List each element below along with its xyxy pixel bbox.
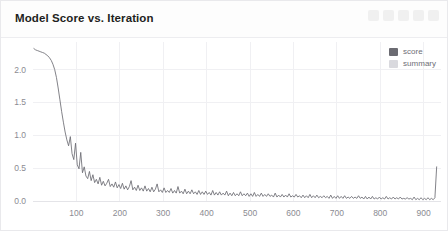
gridlines [33, 42, 441, 201]
panel-title-bar: Model Score vs. Iteration [1, 1, 447, 38]
x-axis-tick-labels: 100200300400500600700800900 [69, 208, 431, 218]
chart-legend: score summary [389, 47, 436, 68]
legend-label-summary: summary [403, 59, 436, 68]
svg-text:900: 900 [417, 208, 431, 218]
legend-swatch-summary [389, 60, 398, 68]
panel-toolbar[interactable] [368, 10, 439, 21]
series-layer [34, 49, 437, 200]
legend-item-summary[interactable]: summary [389, 59, 436, 68]
edit-icon[interactable] [383, 10, 394, 21]
svg-text:100: 100 [69, 208, 83, 218]
share-icon[interactable] [368, 10, 379, 21]
page-title: Model Score vs. Iteration [15, 12, 154, 24]
svg-text:1.5: 1.5 [14, 97, 26, 107]
svg-text:700: 700 [330, 208, 344, 218]
y-axis-tick-labels: 0.00.51.01.52.0 [14, 65, 26, 206]
svg-text:200: 200 [113, 208, 127, 218]
svg-text:0.5: 0.5 [14, 163, 26, 173]
plot-area[interactable]: 100200300400500600700800900 0.00.51.01.5… [1, 38, 448, 231]
legend-item-score[interactable]: score [389, 47, 436, 56]
svg-text:400: 400 [200, 208, 214, 218]
plot-svg: 100200300400500600700800900 0.00.51.01.5… [1, 38, 448, 231]
svg-text:300: 300 [156, 208, 170, 218]
svg-text:0.0: 0.0 [14, 196, 26, 206]
legend-swatch-score [389, 48, 398, 56]
svg-text:1.0: 1.0 [14, 130, 26, 140]
svg-text:500: 500 [243, 208, 257, 218]
overflow-menu-icon[interactable] [428, 10, 439, 21]
chart-panel: Model Score vs. Iteration score summary … [0, 0, 448, 231]
svg-text:2.0: 2.0 [14, 65, 26, 75]
svg-text:800: 800 [373, 208, 387, 218]
svg-text:600: 600 [286, 208, 300, 218]
legend-label-score: score [403, 47, 423, 56]
download-icon[interactable] [413, 10, 424, 21]
fullscreen-icon[interactable] [398, 10, 409, 21]
